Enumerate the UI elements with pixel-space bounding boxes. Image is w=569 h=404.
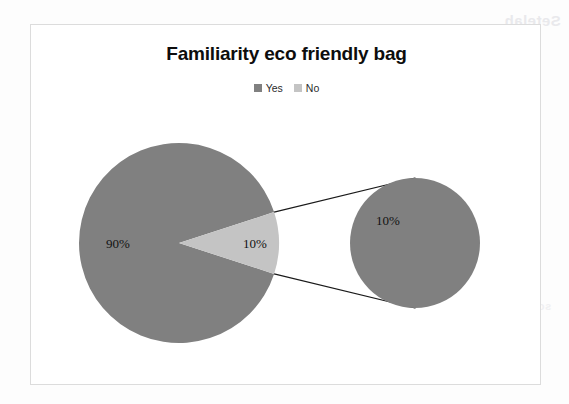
secondary-pie bbox=[350, 178, 480, 308]
data-label-secondary-no: 10% bbox=[376, 213, 400, 228]
chart-container: Familiarity eco friendly bag Yes No bbox=[30, 24, 541, 385]
secondary-pie-slice-no[interactable] bbox=[350, 178, 480, 308]
plot-area: 90% 10% 10% bbox=[31, 25, 542, 386]
pie-of-pie-svg: 90% 10% 10% bbox=[31, 25, 542, 386]
data-label-yes: 90% bbox=[106, 236, 130, 251]
scanned-page: Setelah penggunaan bahan sosialisasi ram… bbox=[0, 0, 569, 404]
data-label-no: 10% bbox=[243, 236, 267, 251]
